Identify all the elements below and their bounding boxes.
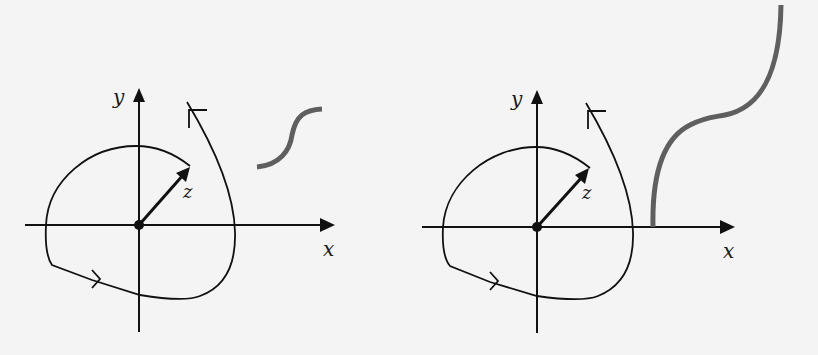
z-vector <box>537 176 583 227</box>
contour-direction-arrow-icon <box>490 272 498 290</box>
x-axis-arrowhead-icon <box>320 218 335 232</box>
left-panel: y x z <box>25 85 335 332</box>
z-vector-label: z <box>581 182 592 203</box>
z-vector-label: z <box>182 181 193 202</box>
x-axis-arrowhead-icon <box>720 220 735 234</box>
contour-end-arrow-icon <box>588 111 606 129</box>
y-axis-label: y <box>510 87 523 111</box>
contour-end-arrow-icon <box>189 110 207 128</box>
origin-point <box>134 220 144 230</box>
contour-direction-arrow-icon <box>92 270 100 288</box>
contour-curve <box>46 102 235 299</box>
y-axis-arrowhead-icon <box>531 90 543 104</box>
y-axis-label: y <box>112 85 125 109</box>
y-axis-arrowhead-icon <box>133 88 145 102</box>
branch-curve-right <box>653 5 781 227</box>
x-axis-label: x <box>723 239 734 263</box>
x-axis-label: x <box>323 237 334 261</box>
diagram-canvas: y x z y x z <box>0 0 818 355</box>
branch-curve-left <box>257 109 322 167</box>
right-panel: y x z <box>422 5 781 333</box>
origin-point <box>532 222 542 232</box>
z-vector <box>139 174 184 225</box>
